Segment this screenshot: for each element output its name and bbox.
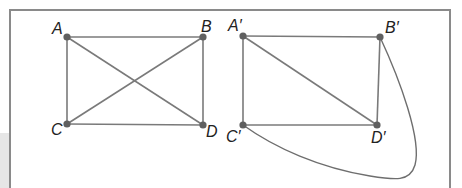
vertex-c: [63, 120, 70, 127]
label-b: B: [201, 18, 212, 35]
graph-diagram: A B C D A′ B′ C′ D′: [0, 0, 462, 188]
vertex-a: [63, 33, 70, 40]
right-graph: A′ B′ C′ D′: [226, 17, 416, 179]
label-c-prime: C′: [226, 128, 242, 145]
vertex-d-prime: [373, 121, 380, 128]
label-b-prime: B′: [385, 19, 400, 36]
curved-edge-b2-c2: [243, 37, 416, 179]
label-d-prime: D′: [371, 129, 387, 146]
edge-a2-b2: [243, 36, 380, 37]
edge-a2-d2: [243, 36, 377, 125]
edge-b2-d2: [377, 37, 380, 125]
left-graph: A B C D: [51, 18, 218, 140]
label-a: A: [51, 20, 63, 37]
label-a-prime: A′: [227, 17, 243, 34]
label-d: D: [206, 123, 218, 140]
edge-c-d: [67, 124, 203, 125]
vertex-b-prime: [376, 33, 383, 40]
label-c: C: [51, 121, 63, 138]
